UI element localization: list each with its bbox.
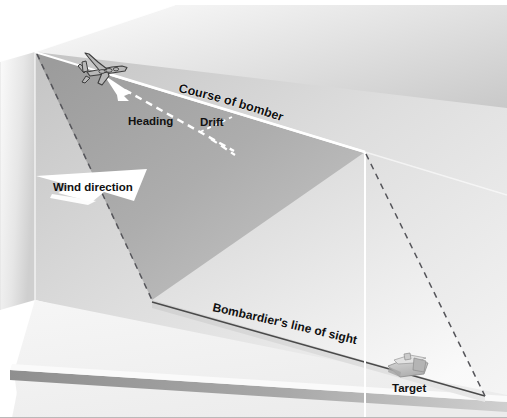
box-left-side-face xyxy=(0,52,35,310)
label-target: Target xyxy=(392,382,426,394)
bomber-engine-2 xyxy=(106,69,112,73)
label-wind-direction: Wind direction xyxy=(53,181,133,193)
bomber-engine-1 xyxy=(99,70,105,74)
label-drift: Drift xyxy=(200,116,224,128)
target-tower xyxy=(404,353,411,360)
bombing-geometry-figure: Course of bomber Heading Drift Wind dire… xyxy=(0,0,507,418)
bomber-engine-3 xyxy=(113,68,118,71)
label-heading: Heading xyxy=(128,115,173,127)
diagram-canvas: Course of bomber Heading Drift Wind dire… xyxy=(0,0,507,418)
